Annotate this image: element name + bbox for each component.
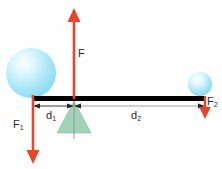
left-mass-sphere xyxy=(6,48,56,98)
dimension-line-d2 xyxy=(74,103,205,108)
right-mass-sphere xyxy=(188,72,212,96)
dimension-line-d1 xyxy=(33,103,74,108)
lever-torque-diagram: F F1 F2 d1 d2 xyxy=(0,0,222,169)
distance-right-label: d2 xyxy=(131,110,141,121)
effort-force-label: F xyxy=(78,48,85,59)
distance-left-label: d1 xyxy=(46,110,56,121)
lever-beam xyxy=(33,96,206,101)
load-force-label: F1 xyxy=(13,119,24,130)
diagram-canvas xyxy=(0,0,222,169)
resistance-force-label: F2 xyxy=(207,96,218,107)
